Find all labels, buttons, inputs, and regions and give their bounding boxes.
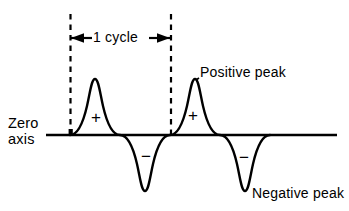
negative-peak-label: Negative peak (252, 186, 344, 202)
plus-sign-second-half-cycle: + (188, 107, 198, 124)
minus-sign-second-half-cycle: − (239, 149, 249, 166)
minus-sign-first-half-cycle: − (141, 148, 151, 165)
zero-axis-label-line1: Zero (8, 115, 39, 131)
zero-axis-label: Zero axis (8, 115, 39, 147)
cycle-label: 1 cycle (93, 30, 138, 46)
waveform-svg (0, 0, 349, 211)
waveform-diagram: Zero axis 1 cycle Positive peak Negative… (0, 0, 349, 211)
zero-axis-label-line2: axis (8, 131, 39, 147)
positive-peak-label: Positive peak (200, 65, 286, 81)
cycle-dimension-left-arrowhead (71, 33, 84, 43)
cycle-start-tick (69, 129, 73, 136)
cycle-dimension-right-arrowhead (157, 33, 170, 43)
plus-sign-first-half-cycle: + (91, 109, 101, 126)
